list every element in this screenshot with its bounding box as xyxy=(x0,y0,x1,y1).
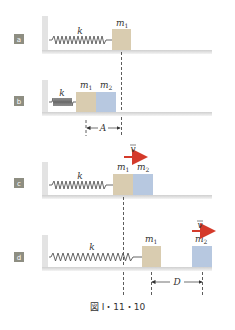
figure-caption: 図 I・11・10 xyxy=(0,300,235,313)
panel-d: d k m1 m2 v D xyxy=(14,220,212,295)
wall xyxy=(42,235,48,269)
panel-b: b k m1 m2 A xyxy=(14,80,212,136)
block-m1 xyxy=(142,246,161,267)
panel-badge: c xyxy=(14,178,24,188)
floor xyxy=(42,50,212,54)
spring-label: k xyxy=(77,171,82,181)
block-m1 xyxy=(76,92,96,112)
svg-text:a: a xyxy=(17,36,21,44)
panel-badge: b xyxy=(14,96,24,106)
block-m1 xyxy=(113,174,133,195)
velocity-label: v xyxy=(130,144,135,154)
spring-compressed xyxy=(49,98,76,106)
dimension-label-D: D xyxy=(172,277,180,287)
block-m1-label: m1 xyxy=(145,234,157,245)
panel-badge: d xyxy=(14,252,24,262)
spring-label: k xyxy=(77,26,82,36)
block-m1 xyxy=(112,29,131,50)
spring xyxy=(49,36,112,44)
panel-c: c k m1 m2 v xyxy=(14,144,212,199)
wall xyxy=(42,80,48,114)
svg-text:c: c xyxy=(17,180,21,188)
svg-text:b: b xyxy=(17,98,22,106)
wall xyxy=(42,16,48,52)
floor xyxy=(42,267,212,271)
spring-mass-diagram: a k m1 b k m1 m2 A c k xyxy=(0,0,235,330)
block-m2 xyxy=(192,246,212,267)
floor xyxy=(42,195,212,199)
block-m1-label: m1 xyxy=(117,162,129,173)
block-m2-label: m2 xyxy=(100,80,113,91)
svg-text:d: d xyxy=(17,254,21,262)
wall xyxy=(42,162,48,197)
spring-stretched xyxy=(49,253,142,261)
floor xyxy=(42,112,212,116)
block-m1-label: m1 xyxy=(116,18,128,29)
velocity-label: v xyxy=(197,220,202,230)
block-m2 xyxy=(133,174,153,195)
panel-a: a k m1 xyxy=(14,16,212,54)
spring-label: k xyxy=(59,88,64,98)
spring xyxy=(49,181,113,189)
block-m2-label: m2 xyxy=(195,234,208,245)
spring-label: k xyxy=(89,242,94,252)
block-m1-label: m1 xyxy=(80,80,92,91)
dimension-label-A: A xyxy=(99,123,107,133)
panel-badge: a xyxy=(14,34,24,44)
block-m2 xyxy=(96,92,116,112)
block-m2-label: m2 xyxy=(137,162,150,173)
